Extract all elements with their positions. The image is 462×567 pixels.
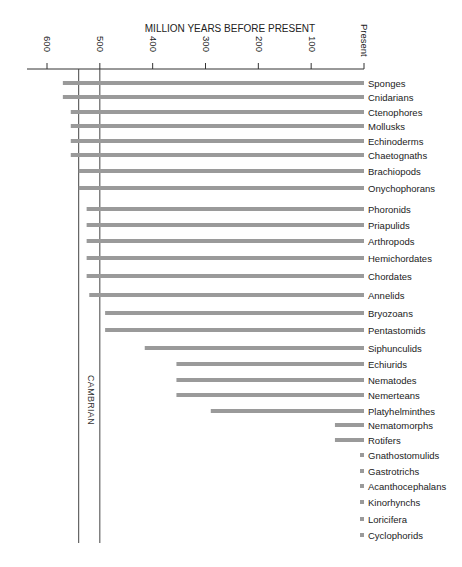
bar-gastrotrichs: [360, 469, 364, 473]
bar-brachiopods: [79, 169, 364, 173]
bar-nemerteans: [176, 393, 364, 397]
category-label: Bryozoans: [368, 308, 413, 319]
bar-cyclophorids: [360, 533, 364, 537]
category-label: Siphunculids: [368, 343, 422, 354]
category-label: Annelids: [368, 290, 405, 301]
bar-bryozoans: [105, 311, 364, 315]
category-label: Nematodes: [368, 375, 417, 386]
category-label: Loricifera: [368, 514, 408, 525]
phylum-labels: SpongesCnidariansCtenophoresMollusksEchi…: [368, 78, 446, 541]
category-label: Mollusks: [368, 121, 405, 132]
category-label: Gnathostomulids: [368, 450, 440, 461]
x-tick-label: 200: [254, 36, 265, 52]
category-label: Hemichordates: [368, 253, 432, 264]
category-label: Arthropods: [368, 236, 415, 247]
bar-onychophorans: [79, 186, 364, 190]
x-axis-title: MILLION YEARS BEFORE PRESENT: [145, 23, 315, 34]
category-label: Nematomorphs: [368, 420, 433, 431]
x-tick-label: Present: [359, 24, 370, 57]
bars: [63, 81, 364, 537]
cambrian-label: CAMBRIAN: [86, 375, 96, 425]
category-label: Acanthocephalans: [368, 481, 446, 492]
x-tick-label: 400: [148, 36, 159, 52]
category-label: Kinorhynchs: [368, 497, 421, 508]
x-tick-label: 500: [95, 36, 106, 52]
bar-acanthocephalans: [360, 484, 364, 488]
category-label: Onychophorans: [368, 183, 435, 194]
category-label: Nemerteans: [368, 390, 420, 401]
bar-annelids: [89, 293, 364, 297]
category-label: Priapulids: [368, 220, 410, 231]
category-label: Sponges: [368, 78, 406, 89]
bar-echinoderms: [71, 139, 364, 143]
category-label: Ctenophores: [368, 107, 423, 118]
bar-nematomorphs: [335, 423, 364, 427]
category-label: Echinoderms: [368, 136, 424, 147]
bar-echiurids: [176, 362, 364, 366]
bar-arthropods: [87, 239, 364, 243]
x-tick-label: 300: [201, 36, 212, 52]
bar-pentastomids: [105, 328, 364, 332]
bar-chordates: [87, 274, 364, 278]
bar-kinorhynchs: [360, 500, 364, 504]
category-label: Platyhelminthes: [368, 406, 435, 417]
phyla-fossil-record-chart: MILLION YEARS BEFORE PRESENT 60050040030…: [0, 0, 462, 567]
bar-nematodes: [176, 378, 364, 382]
bar-gnathostomulids: [360, 453, 364, 457]
bar-hemichordates: [87, 256, 364, 260]
category-label: Pentastomids: [368, 325, 426, 336]
category-label: Cnidarians: [368, 92, 414, 103]
bar-mollusks: [71, 124, 364, 128]
bar-rotifers: [335, 438, 364, 442]
bar-phoronids: [87, 207, 364, 211]
bar-cnidarians: [63, 95, 364, 99]
category-label: Brachiopods: [368, 166, 421, 177]
category-label: Chordates: [368, 271, 412, 282]
category-label: Echiurids: [368, 359, 407, 370]
category-label: Cyclophorids: [368, 530, 423, 541]
category-label: Chaetognaths: [368, 150, 427, 161]
category-label: Phoronids: [368, 204, 411, 215]
bar-sponges: [63, 81, 364, 85]
category-label: Gastrotrichs: [368, 466, 419, 477]
x-tick-label: 100: [307, 36, 318, 52]
bar-chaetognaths: [71, 153, 364, 157]
category-label: Rotifers: [368, 435, 401, 446]
bar-platyhelminthes: [211, 409, 364, 413]
bar-ctenophores: [71, 110, 364, 114]
x-tick-label: 600: [42, 36, 53, 52]
bar-siphunculids: [145, 346, 364, 350]
bar-loricifera: [360, 517, 364, 521]
bar-priapulids: [87, 223, 364, 227]
